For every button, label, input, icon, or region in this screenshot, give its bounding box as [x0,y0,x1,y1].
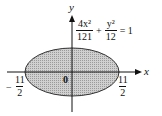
right-intercept-denominator: 2 [119,86,126,98]
right-intercept-numerator: 11 [117,75,129,86]
x-axis-label: x [144,66,149,77]
y-axis-arrow-icon [69,15,75,22]
origin-label: 0 [63,75,68,85]
plus-sign: + [96,25,102,36]
left-intercept-sign: − [6,83,12,93]
term-1-denominator: 121 [76,30,93,42]
right-intercept-label: 11 2 [117,75,129,98]
x-axis-arrow-icon [135,69,142,75]
term-2-numerator: y² [106,19,116,30]
left-intercept-label: 11 2 [14,75,26,98]
equals-one: = 1 [120,25,133,36]
term-2-denominator: 12 [105,30,117,42]
y-axis-label: y [69,2,74,13]
left-intercept-denominator: 2 [16,86,23,98]
equation-term-2: y² 12 [105,19,117,42]
equation-term-1: 4x² 121 [76,19,93,42]
left-intercept-numerator: 11 [14,75,26,86]
term-1-numerator: 4x² [77,19,92,30]
ellipse-equation: 4x² 121 + y² 12 = 1 [76,19,133,42]
